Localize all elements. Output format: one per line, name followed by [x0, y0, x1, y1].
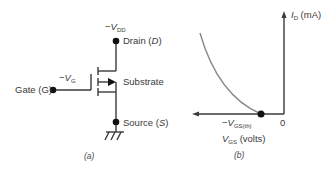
- transfer-curve-chart: [192, 11, 287, 118]
- y-axis-label: ID (mA): [291, 9, 321, 24]
- id-curve: [200, 33, 261, 114]
- gate-label: Gate (G): [15, 84, 52, 95]
- substrate-label: Substrate: [123, 76, 164, 87]
- threshold-label: −VGS(th): [222, 117, 252, 132]
- drain-terminal-dot: [113, 38, 120, 45]
- supply-voltage-label: −VDD: [105, 21, 126, 36]
- source-terminal-dot: [113, 119, 120, 126]
- caption-b: (b): [234, 150, 244, 160]
- mosfet-schematic: [53, 41, 124, 140]
- y-axis-arrow-icon: [282, 11, 287, 18]
- origin-label: 0: [280, 117, 285, 128]
- drain-label: Drain (D): [123, 35, 162, 46]
- x-axis-label: VGS (volts): [222, 133, 266, 148]
- gate-voltage-label: −VG: [59, 72, 76, 87]
- caption-a: (a): [84, 151, 94, 161]
- x-axis-arrow-icon: [192, 112, 199, 117]
- substrate-arrow-icon: [108, 78, 116, 86]
- source-label: Source (S): [123, 117, 168, 128]
- threshold-dot: [258, 111, 265, 118]
